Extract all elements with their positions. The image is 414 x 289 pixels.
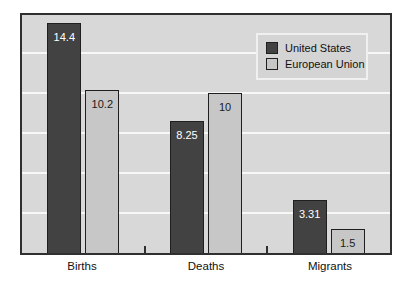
x-axis-tick [144,246,146,253]
bar-united-states-births: 14.4 [47,23,81,253]
bar-value-label: 8.25 [171,129,203,141]
x-axis-labels: Births Deaths Migrants [20,260,392,272]
legend: United States European Union [256,33,368,80]
plot-area: 14.410.28.25103.311.5 United States Euro… [20,13,392,255]
bar-united-states-migrants: 3.31 [293,200,327,253]
x-axis-label-deaths: Deaths [144,260,268,272]
bar-value-label: 3.31 [294,208,326,220]
bar-chart-figure: 14.410.28.25103.311.5 United States Euro… [0,0,414,289]
legend-label-united-states: United States [285,42,351,54]
bar-value-label: 10 [209,101,241,113]
x-axis-tick [266,246,268,253]
x-axis-label-migrants: Migrants [268,260,392,272]
legend-item-united-states: United States [266,40,358,56]
bar-european-union-migrants: 1.5 [331,229,365,253]
legend-item-european-union: European Union [266,56,358,72]
bar-value-label: 14.4 [48,31,80,43]
x-axis-label-births: Births [20,260,144,272]
legend-swatch-european-union [266,58,278,70]
legend-label-european-union: European Union [285,58,365,70]
bar-value-label: 10.2 [86,98,118,110]
legend-swatch-united-states [266,42,278,54]
bar-european-union-deaths: 10 [208,93,242,253]
bar-value-label: 1.5 [332,237,364,249]
bar-european-union-births: 10.2 [85,90,119,253]
bar-united-states-deaths: 8.25 [170,121,204,253]
